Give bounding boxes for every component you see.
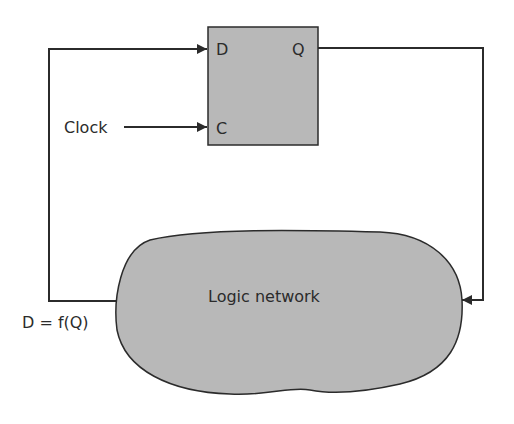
sequential-circuit-diagram: D Q C Clock Logic network D = f(Q) xyxy=(0,0,514,424)
clock-label: Clock xyxy=(64,118,108,137)
flipflop-d-label: D xyxy=(216,40,228,59)
feedback-equation-label: D = f(Q) xyxy=(22,313,89,332)
flipflop-q-label: Q xyxy=(292,40,305,59)
logic-network-label: Logic network xyxy=(208,287,321,306)
d-flipflop: D Q C xyxy=(208,27,318,145)
logic-network-shape xyxy=(116,230,462,394)
flipflop-c-label: C xyxy=(216,119,227,138)
